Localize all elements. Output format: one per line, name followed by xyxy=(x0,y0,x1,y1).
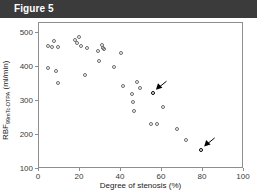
x-tick-mark xyxy=(243,168,244,171)
data-point xyxy=(83,73,87,77)
y-tick-label: 500 xyxy=(20,28,33,37)
y-axis-title-main: RBF xyxy=(1,124,10,140)
x-tick-mark xyxy=(202,168,203,171)
data-point xyxy=(77,35,81,39)
x-axis-title: Degree of stenosis (%) xyxy=(38,181,243,190)
data-point xyxy=(155,122,159,126)
y-tick-label: 400 xyxy=(20,62,33,71)
data-point xyxy=(97,59,101,63)
data-point xyxy=(102,47,106,51)
data-point xyxy=(112,65,116,69)
y-axis-title: RBF99mTc-DTPA (ml/min) xyxy=(1,45,12,155)
x-tick-label: 100 xyxy=(236,172,249,181)
data-point xyxy=(175,127,179,131)
x-tick-label: 20 xyxy=(75,172,84,181)
data-point xyxy=(151,91,155,95)
y-tick-label: 200 xyxy=(20,130,33,139)
data-point xyxy=(85,46,89,50)
figure-banner: Figure 5 xyxy=(0,0,257,18)
scatter-chart: RBF99mTc-DTPA (ml/min) 100200300400500 0… xyxy=(0,18,257,193)
x-tick-label: 80 xyxy=(198,172,207,181)
y-axis-title-unit: (ml/min) xyxy=(1,61,10,90)
figure-number-label: Figure 5 xyxy=(14,3,54,14)
y-tick-mark xyxy=(35,100,38,101)
plot-area xyxy=(38,22,243,168)
x-tick-label: 0 xyxy=(36,172,40,181)
y-tick-label: 300 xyxy=(20,96,33,105)
x-tick-mark xyxy=(120,168,121,171)
y-axis-title-subscript: 99mTc-DTPA xyxy=(5,92,11,124)
data-point xyxy=(119,51,123,55)
data-point xyxy=(149,122,153,126)
data-point xyxy=(46,66,50,70)
y-tick-mark xyxy=(35,134,38,135)
data-point xyxy=(54,69,58,73)
data-point xyxy=(199,148,203,152)
data-point xyxy=(79,44,83,48)
y-tick-mark xyxy=(35,66,38,67)
x-tick-mark xyxy=(38,168,39,171)
y-tick-mark xyxy=(35,32,38,33)
data-point xyxy=(50,45,54,49)
data-point xyxy=(121,84,125,88)
x-tick-mark xyxy=(79,168,80,171)
data-point xyxy=(138,86,142,90)
x-tick-mark xyxy=(161,168,162,171)
x-tick-label: 60 xyxy=(157,172,166,181)
data-point xyxy=(132,109,136,113)
data-point xyxy=(131,100,135,104)
data-point xyxy=(56,45,60,49)
data-point xyxy=(130,92,134,96)
data-point xyxy=(96,49,100,53)
y-tick-label: 100 xyxy=(20,164,33,173)
data-point xyxy=(161,105,165,109)
data-point xyxy=(135,80,139,84)
data-point xyxy=(184,138,188,142)
data-point xyxy=(56,81,60,85)
data-point xyxy=(52,39,56,43)
x-tick-label: 40 xyxy=(116,172,125,181)
data-points-layer xyxy=(39,23,242,167)
